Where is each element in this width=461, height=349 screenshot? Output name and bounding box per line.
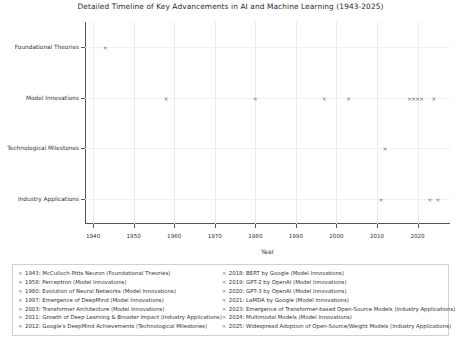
gridline-vertical [134,22,135,224]
plot-area: 194019501960197019801990200020102020 Fou… [85,22,450,224]
data-point-marker [419,95,424,100]
chart-title: Detailed Timeline of Key Advancements in… [0,2,461,11]
gridline-vertical [255,22,256,224]
data-point-marker [346,95,351,100]
gridline-horizontal [85,98,450,99]
legend-item: ×2012: Google's DeepMind Achievements (T… [18,322,222,331]
legend-item: ×2003: Transformer Architecture (Model I… [18,305,222,314]
x-tick [296,224,297,228]
legend-item: ×2019: GPT-2 by OpenAI (Model Innovation… [222,278,456,287]
gridline-vertical [174,22,175,224]
gridline-vertical [377,22,378,224]
legend-marker-icon: × [18,305,25,314]
chart-figure: Detailed Timeline of Key Advancements in… [0,0,461,349]
y-axis-spine [85,22,86,224]
gridline-vertical [215,22,216,224]
legend-item: ×1997: Emergence of DeepMind (Model Inno… [18,296,222,305]
x-tick [134,224,135,228]
data-point-marker [379,196,384,201]
legend-marker-icon: × [222,269,229,278]
y-tick [81,47,85,48]
y-tick-label: Technological Milestones [7,145,79,151]
legend-marker-icon: × [222,322,229,331]
data-point-marker [103,45,108,50]
y-tick [81,148,85,149]
legend-marker-icon: × [18,269,25,278]
data-point-marker [431,95,436,100]
gridline-horizontal [85,148,450,149]
data-point-marker [253,95,258,100]
x-tick-label: 1940 [86,233,100,239]
x-tick [377,224,378,228]
legend-item-label: 2019: GPT-2 by OpenAI (Model Innovations… [229,278,347,287]
x-tick-label: 2000 [329,233,343,239]
legend-item-label: 2025: Widespread Adoption of Open-Source… [229,322,451,331]
legend-item-label: 1958: Perceptron (Model Innovations) [25,278,127,287]
gridline-horizontal [85,47,450,48]
legend-marker-icon: × [222,305,229,314]
data-point-marker [427,196,432,201]
data-point-marker [322,95,327,100]
legend-column-right: ×2018: BERT by Google (Model Innovations… [222,269,456,331]
x-tick [174,224,175,228]
x-tick-label: 1980 [248,233,262,239]
legend-item: ×2020: GPT-3 by OpenAI (Model Innovation… [222,287,456,296]
legend-marker-icon: × [222,296,229,305]
data-point-marker [383,146,388,151]
x-tick-label: 1990 [289,233,303,239]
x-tick [255,224,256,228]
legend-item: ×1943: McCulloch-Pitts Neuron (Foundatio… [18,269,222,278]
x-axis-label: Year [85,248,450,255]
legend-item-label: 1997: Emergence of DeepMind (Model Innov… [25,296,164,305]
legend-marker-icon: × [222,313,229,322]
legend-item: ×2018: BERT by Google (Model Innovations… [222,269,456,278]
x-tick [336,224,337,228]
legend-marker-icon: × [18,322,25,331]
legend-item: ×1980: Evolution of Neural Networks (Mod… [18,287,222,296]
legend-item-label: 2023: Emergence of Transformer-based Ope… [229,305,456,314]
legend-marker-icon: × [18,278,25,287]
data-point-marker [435,196,440,201]
legend-item-label: 2020: GPT-3 by OpenAI (Model Innovations… [229,287,347,296]
legend-item-label: 2021: LaMDA by Google (Model Innovations… [229,296,349,305]
x-tick [93,224,94,228]
legend-marker-icon: × [18,287,25,296]
x-tick-label: 1960 [167,233,181,239]
legend-item: ×1958: Perceptron (Model Innovations) [18,278,222,287]
x-tick-label: 1950 [127,233,141,239]
legend-marker-icon: × [18,296,25,305]
legend-box: ×1943: McCulloch-Pitts Neuron (Foundatio… [12,264,449,336]
legend-column-left: ×1943: McCulloch-Pitts Neuron (Foundatio… [18,269,222,331]
legend-item: ×2024: Multimodal Models (Model Innovati… [222,313,456,322]
x-tick-label: 1970 [208,233,222,239]
x-tick-label: 2010 [370,233,384,239]
y-tick [81,98,85,99]
gridline-vertical [296,22,297,224]
y-tick-label: Foundational Theories [15,44,79,50]
x-tick [215,224,216,228]
x-axis-spine [85,223,450,224]
legend-item: ×2025: Widespread Adoption of Open-Sourc… [222,322,456,331]
legend-marker-icon: × [222,287,229,296]
y-tick [81,199,85,200]
gridline-vertical [418,22,419,224]
legend-item: ×2011: Growth of Deep Learning & Broader… [18,313,222,322]
legend-item-label: 1943: McCulloch-Pitts Neuron (Foundation… [25,269,170,278]
legend-item-label: 2018: BERT by Google (Model Innovations) [229,269,344,278]
legend-marker-icon: × [18,313,25,322]
legend-item: ×2021: LaMDA by Google (Model Innovation… [222,296,456,305]
x-tick [418,224,419,228]
legend-item-label: 1980: Evolution of Neural Networks (Mode… [25,287,176,296]
legend-marker-icon: × [222,278,229,287]
y-tick-label: Industry Applications [18,196,79,202]
legend-item-label: 2024: Multimodal Models (Model Innovatio… [229,313,352,322]
x-tick-label: 2020 [410,233,424,239]
gridline-vertical [336,22,337,224]
gridline-vertical [93,22,94,224]
legend-item-label: 2003: Transformer Architecture (Model In… [25,305,164,314]
y-tick-label: Model Innovations [26,95,79,101]
data-point-marker [164,95,169,100]
legend-item-label: 2012: Google's DeepMind Achievements (Te… [25,322,207,331]
legend-item: ×2023: Emergence of Transformer-based Op… [222,305,456,314]
legend-item-label: 2011: Growth of Deep Learning & Broader … [25,313,222,322]
